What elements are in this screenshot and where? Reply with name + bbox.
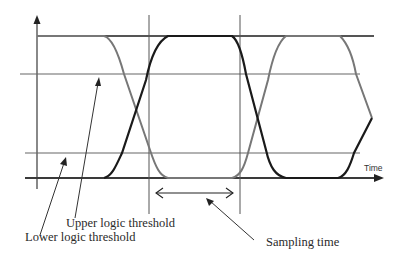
signal-trace-dark [104,36,372,178]
signal-trace-gray [37,36,372,178]
time-axis-label: Time [364,163,383,173]
upper-threshold-pointer-arrow-icon [75,77,101,218]
time-axis-arrow-icon [374,174,384,182]
sampling-time-label: Sampling time [266,235,339,250]
lower-threshold-label: Lower logic threshold [25,230,135,245]
diagram-canvas [0,0,400,261]
upper-threshold-label: Upper logic threshold [66,216,175,231]
y-axis-arrow-icon [34,15,41,24]
sampling-time-pointer-arrow-icon [206,198,254,240]
lower-threshold-pointer-arrow-icon [40,157,67,235]
sampling-time-double-arrow-icon [156,188,233,198]
y-axis [34,15,41,189]
